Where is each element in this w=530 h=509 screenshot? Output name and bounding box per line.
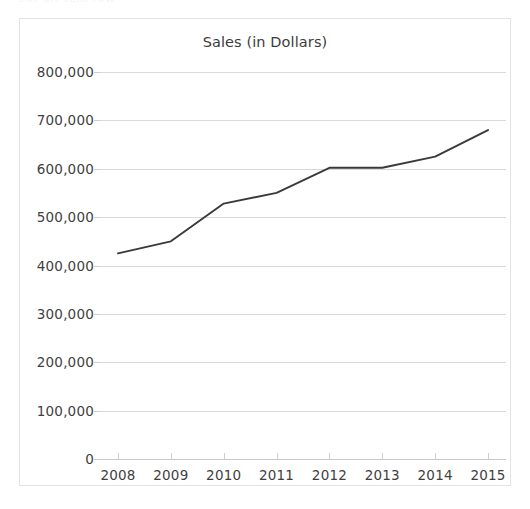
y-axis-tick-label: 400,000 bbox=[20, 258, 94, 274]
y-axis-labels: 0100,000200,000300,000400,000500,000600,… bbox=[20, 19, 94, 487]
y-axis-tick-label: 100,000 bbox=[20, 403, 94, 419]
y-axis-tick-label: 300,000 bbox=[20, 306, 94, 322]
y-axis-tick-label: 700,000 bbox=[20, 112, 94, 128]
y-axis-tick-label: 200,000 bbox=[20, 354, 94, 370]
plot-area: 0100,000200,000300,000400,000500,000600,… bbox=[20, 19, 512, 487]
top-cutoff-text: cut-off text row bbox=[18, 0, 115, 5]
y-axis-tick-label: 0 bbox=[20, 451, 94, 467]
y-axis-tick-label: 800,000 bbox=[20, 64, 94, 80]
chart-container: Sales (in Dollars) 0100,000200,000300,00… bbox=[19, 18, 511, 486]
y-axis-tick-label: 500,000 bbox=[20, 209, 94, 225]
series-line-sales bbox=[100, 19, 506, 487]
y-axis-tick-label: 600,000 bbox=[20, 161, 94, 177]
top-cutoff-artifact: cut-off text row bbox=[0, 0, 530, 14]
